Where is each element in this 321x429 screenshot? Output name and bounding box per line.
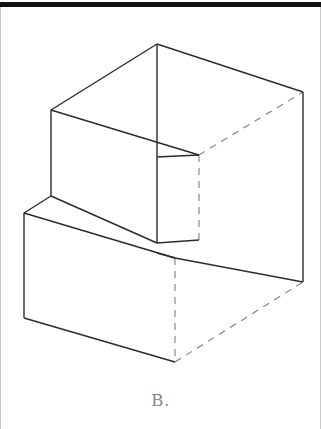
hidden-bottom-diagonal bbox=[175, 282, 303, 362]
figure-page: B. bbox=[0, 0, 321, 429]
lower-right-top-diagonal bbox=[175, 258, 303, 282]
top-right-edge bbox=[157, 44, 303, 92]
upper-front-face-diagonal bbox=[51, 110, 199, 155]
lower-front-top-diagonal bbox=[24, 213, 175, 258]
step-lower-left-diagonal bbox=[51, 196, 157, 243]
hidden-upper-rear-diagonal bbox=[199, 92, 303, 155]
isometric-block-figure bbox=[0, 0, 321, 429]
step-top-right-edge bbox=[157, 240, 199, 243]
lower-left-top-diagonal bbox=[24, 196, 51, 213]
lower-front-bottom-diagonal bbox=[24, 318, 175, 362]
top-left-edge bbox=[51, 44, 157, 110]
upper-step-top-edge bbox=[157, 155, 199, 157]
figure-caption: B. bbox=[0, 390, 321, 410]
lower-step-face-edge bbox=[157, 253, 175, 258]
